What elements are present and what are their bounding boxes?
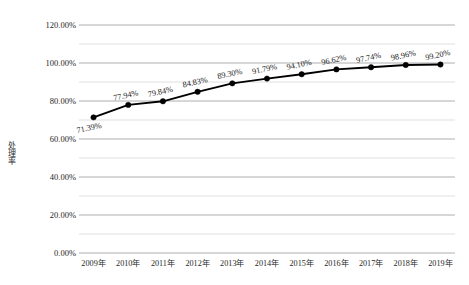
plot-area: 71.39%77.94%79.84%84.83%89.30%91.79%94.1… [79,25,455,253]
x-tick-label: 2019年 [428,258,452,269]
data-point-label: 96.62% [321,53,348,67]
y-tick-label: 0.00% [22,249,76,258]
x-tick-label: 2018年 [394,258,418,269]
y-tick-label: 80.00% [22,97,76,106]
x-tick-label: 2013年 [220,258,244,269]
y-tick-label: 120.00% [22,21,76,30]
x-tick-label: 2012年 [185,258,209,269]
data-point-label: 99.20% [425,48,452,62]
data-point-label: 79.84% [147,85,174,99]
data-point-label: 98.96% [390,48,417,62]
x-tick-label: 2016年 [324,258,348,269]
data-point-label: 89.30% [217,67,244,81]
x-tick-label: 2009年 [81,258,105,269]
y-axis-title: 处理率 [2,118,20,188]
x-tick-label: 2011年 [151,258,175,269]
y-tick-label: 20.00% [22,211,76,220]
x-tick-label: 2010年 [116,258,140,269]
x-tick-label: 2017年 [359,258,383,269]
y-tick-label: 60.00% [22,135,76,144]
data-point-label: 77.94% [112,88,139,102]
data-point-labels: 71.39%77.94%79.84%84.83%89.30%91.79%94.1… [76,48,452,135]
data-point-label: 91.79% [251,62,278,76]
line-chart: 处理率 0.00%20.00%40.00%60.00%80.00%100.00%… [0,0,469,285]
data-point-label: 84.83% [182,75,209,89]
x-tick-label: 2014年 [255,258,279,269]
data-point-label: 71.39% [76,121,103,135]
y-tick-label: 40.00% [22,173,76,182]
x-tick-label: 2015年 [290,258,314,269]
x-axis-tick-labels: 2009年2010年2011年2012年2013年2014年2015年2016年… [79,258,455,280]
plot-svg: 71.39%77.94%79.84%84.83%89.30%91.79%94.1… [79,25,455,253]
y-tick-label: 100.00% [22,59,76,68]
data-point-label: 94.10% [286,58,313,72]
y-axis-tick-labels: 0.00%20.00%40.00%60.00%80.00%100.00%120.… [20,0,76,285]
